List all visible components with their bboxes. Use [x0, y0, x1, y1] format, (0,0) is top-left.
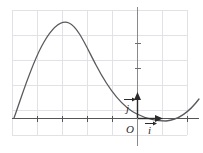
coordinate-plane-figure: O i j [0, 0, 203, 153]
vector-i-label: i [148, 124, 151, 136]
vector-j-label-group: j [124, 97, 136, 114]
plotted-curve [14, 22, 199, 121]
origin-label: O [126, 123, 134, 135]
vector-i-label-group: i [145, 121, 157, 136]
vector-i-label-accent-arrowhead [153, 121, 157, 125]
vector-j-hat [134, 92, 141, 118]
vector-j-arrowhead [134, 92, 141, 100]
vector-j-label: j [124, 102, 129, 114]
figure-container: O i j [0, 0, 203, 153]
